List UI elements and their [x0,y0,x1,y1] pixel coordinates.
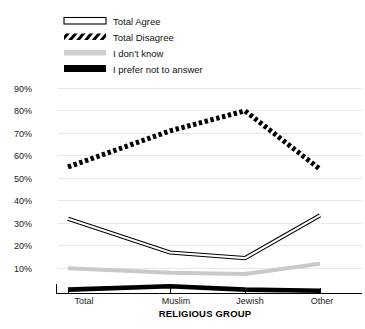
y-tick-label: 60% [14,151,32,161]
chart-legend: Total Agree Total Disagree I don't know … [64,16,203,75]
x-axis-title: RELIGIOUS GROUP [159,308,252,319]
legend-label: Total Agree [113,16,161,27]
y-tick-label: 20% [14,241,32,251]
y-axis-tick-labels: 90% 80% 70% 60% 50% 40% 30% 20% 10% [14,84,32,274]
line-total-agree-inner [68,215,320,258]
x-category-label: Jewish [236,296,264,306]
legend-item-i-dont-know[interactable]: I don't know [64,48,164,59]
legend-label: Total Disagree [113,32,174,43]
gridlines [58,88,362,268]
hollow-rect-swatch-icon [64,18,106,25]
series-total-agree [68,215,320,258]
legend-item-total-agree[interactable]: Total Agree [64,16,161,27]
y-tick-label: 50% [14,174,32,184]
legend-label: I prefer not to answer [113,64,203,75]
y-tick-label: 80% [14,106,32,116]
black-rect-swatch-icon [64,65,106,72]
hatched-rect-swatch-icon [64,34,106,41]
y-tick-label: 40% [14,196,32,206]
legend-item-total-disagree[interactable]: Total Disagree [64,32,174,43]
line-total-disagree [68,111,320,169]
series-i-prefer-not-to-answer [68,286,320,291]
legend-label: I don't know [113,48,164,59]
chart-container: 90% 80% 70% 60% 50% 40% 30% 20% 10% [0,0,365,329]
y-tick-label: 10% [14,264,32,274]
line-i-prefer-not-to-answer [68,286,320,291]
legend-item-i-prefer-not-to-answer[interactable]: I prefer not to answer [64,64,203,75]
y-tick-label: 70% [14,129,32,139]
y-tick-label: 30% [14,219,32,229]
x-category-label: Other [311,296,334,306]
x-category-label: Muslim [162,296,191,306]
religious-group-line-chart: 90% 80% 70% 60% 50% 40% 30% 20% 10% [0,0,365,329]
gray-rect-swatch-icon [64,50,106,56]
y-tick-label: 90% [14,84,32,94]
x-category-label: Total [74,296,93,306]
line-i-dont-know [68,264,320,274]
series-total-disagree [68,111,320,169]
x-axis-category-labels: Total Muslim Jewish Other [74,296,333,306]
series-i-dont-know [68,264,320,274]
